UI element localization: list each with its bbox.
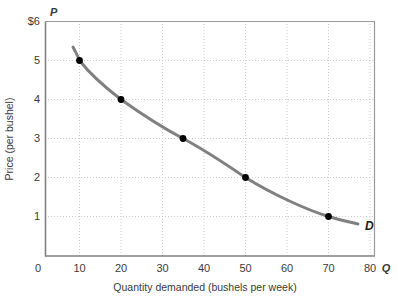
xtick-label-60: 60 [281, 262, 293, 274]
ytick-label-4: 4 [34, 93, 40, 105]
xtick-label-50: 50 [239, 262, 251, 274]
ytick-label-6: $6 [28, 15, 40, 27]
demand-curve-line [73, 47, 358, 224]
xtick-label-40: 40 [198, 262, 210, 274]
data-point-80-1 [325, 213, 332, 220]
xtick-label-0: 0 [35, 262, 41, 274]
xtick-label-70: 70 [322, 262, 334, 274]
ytick-label-1: 1 [34, 210, 40, 222]
data-point-20-4 [118, 96, 125, 103]
axis-symbol-q: Q [382, 262, 391, 274]
xtick-label-10: 10 [73, 262, 85, 274]
data-point-35-3 [180, 135, 187, 142]
data-point-10-5 [76, 57, 83, 64]
axis-symbol-p: P [50, 6, 58, 18]
ytick-label-5: 5 [34, 54, 40, 66]
xtick-label-30: 30 [156, 262, 168, 274]
xtick-label-20: 20 [115, 262, 127, 274]
chart-canvas: D $6 5 4 3 2 1 P 0 10 20 30 40 50 60 70 … [0, 0, 398, 297]
xtick-label-80: 80 [364, 262, 376, 274]
y-axis-title: Price (per bushel) [3, 98, 15, 181]
ytick-label-3: 3 [34, 132, 40, 144]
demand-curve-series [73, 47, 358, 224]
x-axis-title: Quantity demanded (bushels per week) [113, 281, 296, 293]
data-point-55-2 [242, 174, 249, 181]
demand-curve-label: D [365, 219, 374, 233]
demand-curve-chart: D $6 5 4 3 2 1 P 0 10 20 30 40 50 60 70 … [0, 0, 398, 297]
horizontal-gridlines [45, 61, 375, 217]
ytick-label-2: 2 [34, 171, 40, 183]
